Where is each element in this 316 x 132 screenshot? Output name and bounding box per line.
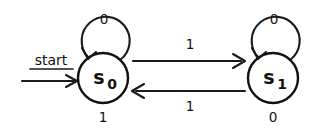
transition-s0-to-s1[interactable]: 1 <box>133 36 245 68</box>
state-node-s0[interactable]: s 0 1 <box>78 53 128 125</box>
start-arrow-group: start <box>22 52 77 87</box>
start-label: start <box>35 52 68 68</box>
fsm-diagram: start s 0 1 0 1 1 s 1 0 0 <box>0 0 316 132</box>
state-output-s0: 1 <box>99 109 108 125</box>
transition-label-s0-s1: 1 <box>186 36 195 52</box>
state-subscript-s0: 0 <box>107 76 117 92</box>
state-label-s0: s <box>93 66 104 88</box>
self-loop-label-s0: 0 <box>100 11 109 27</box>
state-label-s1: s <box>263 66 274 88</box>
transition-label-s1-s0: 1 <box>186 98 195 114</box>
self-loop-label-s1: 0 <box>270 11 279 27</box>
state-node-s1[interactable]: s 1 0 <box>248 53 298 125</box>
state-subscript-s1: 1 <box>277 76 287 92</box>
transition-s1-to-s0[interactable]: 1 <box>132 84 245 114</box>
state-output-s1: 0 <box>269 109 278 125</box>
